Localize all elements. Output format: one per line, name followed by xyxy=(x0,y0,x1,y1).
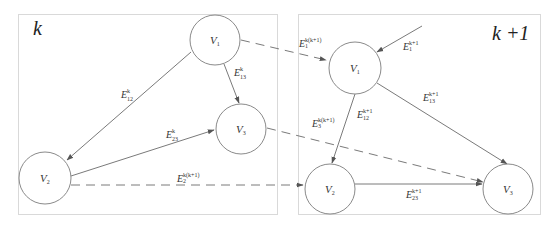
temporal-graph-diagram: k k +1 V1 V3 V2 V1 V2 V3 Ek12 Ek13 Ek23 … xyxy=(0,0,553,227)
panel-k-plus-1-label: k +1 xyxy=(492,22,529,44)
label-e12-k: Ek12 xyxy=(120,88,133,102)
label-e23-k: Ek23 xyxy=(165,128,178,142)
edge-k-v3-to-k1-v3 xyxy=(267,128,483,182)
label-e2-k-k1-sub: 2 xyxy=(183,178,186,184)
label-e1-k1-sub: 1 xyxy=(409,46,412,52)
edge-k1-v1-v2 xyxy=(332,94,355,163)
node-k-v2: V2 xyxy=(19,152,71,204)
label-e13-k1-sub: 13 xyxy=(429,98,435,104)
edge-k-v1-to-k1-v1 xyxy=(241,40,326,60)
edge-k1-v1-v3 xyxy=(377,83,507,164)
label-e12-k1-sub: 12 xyxy=(363,115,369,121)
panel-k-label: k xyxy=(33,17,43,39)
label-e3-k-k1: Ek(k+1) xyxy=(311,117,335,129)
label-e23-k1-sub: 23 xyxy=(412,195,418,201)
edge-k-v2-v3 xyxy=(71,130,214,176)
node-k-v1: V1 xyxy=(190,15,240,65)
label-e13-k: Ek13 xyxy=(233,66,246,80)
node-k1-v2: V2 xyxy=(305,164,355,214)
label-e3-k-k1-sub: 3 xyxy=(318,123,321,129)
node-k-v3: V3 xyxy=(216,104,266,154)
node-k1-v1: V1 xyxy=(329,42,381,94)
label-e1-k-k1: Ek(k+1) xyxy=(298,37,322,49)
label-e2-k-k1: Ek(k+1) xyxy=(176,172,200,184)
label-e1-k-k1-sub: 1 xyxy=(305,43,308,49)
node-k1-v3: V3 xyxy=(483,164,533,214)
edge-k1-external-v1 xyxy=(377,26,422,52)
